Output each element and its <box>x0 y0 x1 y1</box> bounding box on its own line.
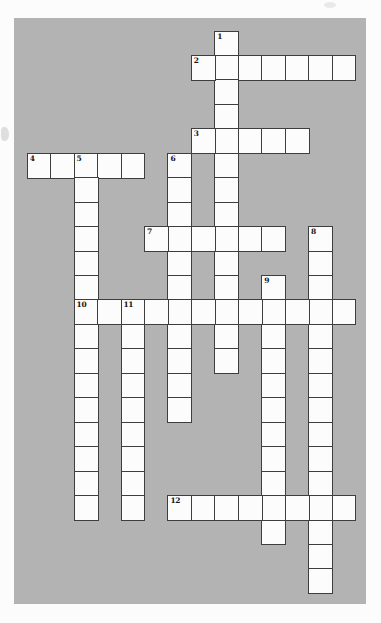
crossword-cell[interactable] <box>308 251 333 277</box>
crossword-cell[interactable] <box>214 324 239 350</box>
crossword-cell[interactable] <box>285 495 310 521</box>
crossword-cell[interactable] <box>308 275 333 301</box>
crossword-cell-start-6[interactable]: 6 <box>167 153 192 179</box>
crossword-cell[interactable] <box>308 324 333 350</box>
crossword-cell[interactable] <box>308 422 333 448</box>
crossword-cell[interactable] <box>167 348 192 374</box>
crossword-cell[interactable] <box>308 55 333 81</box>
crossword-cell[interactable] <box>121 373 146 399</box>
crossword-cell[interactable] <box>308 446 333 472</box>
crossword-cell[interactable] <box>261 324 286 350</box>
crossword-cell[interactable] <box>121 471 146 497</box>
crossword-cell[interactable] <box>214 128 239 154</box>
crossword-cell[interactable] <box>238 55 263 81</box>
crossword-cell[interactable] <box>238 495 263 521</box>
crossword-cell[interactable] <box>74 348 99 374</box>
crossword-cell[interactable] <box>74 177 99 203</box>
crossword-cell[interactable] <box>261 471 286 497</box>
crossword-cell[interactable] <box>261 226 286 252</box>
crossword-cell[interactable] <box>308 471 333 497</box>
crossword-cell[interactable] <box>74 324 99 350</box>
crossword-cell-start-3[interactable]: 3 <box>191 128 216 154</box>
crossword-cell[interactable] <box>214 55 239 81</box>
crossword-cell[interactable] <box>214 299 239 325</box>
crossword-cell-start-10[interactable]: 10 <box>74 299 99 325</box>
crossword-cell[interactable] <box>308 544 333 570</box>
crossword-cell[interactable] <box>121 397 146 423</box>
crossword-cell[interactable] <box>261 520 286 546</box>
crossword-cell[interactable] <box>74 397 99 423</box>
crossword-cell[interactable] <box>332 495 357 521</box>
crossword-cell[interactable] <box>261 373 286 399</box>
crossword-cell[interactable] <box>74 471 99 497</box>
crossword-cell[interactable] <box>74 422 99 448</box>
crossword-cell[interactable] <box>74 251 99 277</box>
crossword-cell[interactable] <box>261 128 286 154</box>
crossword-cell-start-4[interactable]: 4 <box>27 153 52 179</box>
crossword-cell[interactable] <box>167 397 192 423</box>
crossword-cell[interactable] <box>214 79 239 105</box>
crossword-cell[interactable] <box>261 55 286 81</box>
crossword-cell[interactable] <box>50 153 75 179</box>
crossword-cell[interactable] <box>261 422 286 448</box>
crossword-cell[interactable] <box>144 299 169 325</box>
crossword-cell[interactable] <box>167 202 192 228</box>
crossword-cell[interactable] <box>74 202 99 228</box>
crossword-cell-start-12[interactable]: 12 <box>167 495 192 521</box>
crossword-cell[interactable] <box>261 348 286 374</box>
crossword-cell[interactable] <box>214 202 239 228</box>
crossword-cell-start-8[interactable]: 8 <box>308 226 333 252</box>
crossword-cell-start-1[interactable]: 1 <box>214 31 239 57</box>
crossword-cell[interactable] <box>191 226 216 252</box>
crossword-cell[interactable] <box>214 177 239 203</box>
crossword-cell[interactable] <box>214 251 239 277</box>
crossword-cell[interactable] <box>214 348 239 374</box>
crossword-cell[interactable] <box>121 153 146 179</box>
crossword-cell[interactable] <box>191 299 216 325</box>
crossword-cell[interactable] <box>167 373 192 399</box>
crossword-cell[interactable] <box>74 373 99 399</box>
crossword-cell[interactable] <box>121 446 146 472</box>
crossword-cell[interactable] <box>308 397 333 423</box>
crossword-cell[interactable] <box>238 226 263 252</box>
crossword-cell[interactable] <box>261 397 286 423</box>
crossword-cell[interactable] <box>238 299 263 325</box>
crossword-cell[interactable] <box>167 299 192 325</box>
crossword-cell[interactable] <box>121 495 146 521</box>
crossword-cell[interactable] <box>238 128 263 154</box>
crossword-cell[interactable] <box>214 495 239 521</box>
crossword-cell[interactable] <box>261 495 286 521</box>
crossword-cell[interactable] <box>74 275 99 301</box>
crossword-cell[interactable] <box>121 422 146 448</box>
crossword-cell[interactable] <box>332 299 357 325</box>
crossword-cell[interactable] <box>121 348 146 374</box>
crossword-cell[interactable] <box>97 299 122 325</box>
crossword-cell[interactable] <box>214 226 239 252</box>
crossword-cell[interactable] <box>332 55 357 81</box>
crossword-cell[interactable] <box>308 495 333 521</box>
crossword-cell[interactable] <box>308 568 333 594</box>
crossword-cell[interactable] <box>261 299 286 325</box>
crossword-cell[interactable] <box>121 324 146 350</box>
crossword-cell[interactable] <box>74 446 99 472</box>
crossword-cell[interactable] <box>308 348 333 374</box>
crossword-cell-start-11[interactable]: 11 <box>121 299 146 325</box>
crossword-cell[interactable] <box>214 275 239 301</box>
crossword-cell[interactable] <box>167 251 192 277</box>
crossword-cell[interactable] <box>167 226 192 252</box>
crossword-cell[interactable] <box>214 153 239 179</box>
crossword-cell[interactable] <box>74 226 99 252</box>
crossword-cell-start-7[interactable]: 7 <box>144 226 169 252</box>
crossword-cell[interactable] <box>308 520 333 546</box>
crossword-cell[interactable] <box>214 104 239 130</box>
crossword-cell[interactable] <box>97 153 122 179</box>
crossword-cell[interactable] <box>167 324 192 350</box>
crossword-cell-start-9[interactable]: 9 <box>261 275 286 301</box>
crossword-cell[interactable] <box>285 299 310 325</box>
crossword-cell-start-2[interactable]: 2 <box>191 55 216 81</box>
crossword-cell[interactable] <box>167 177 192 203</box>
crossword-cell[interactable] <box>74 495 99 521</box>
crossword-cell[interactable] <box>285 55 310 81</box>
crossword-cell[interactable] <box>261 446 286 472</box>
crossword-cell[interactable] <box>308 373 333 399</box>
